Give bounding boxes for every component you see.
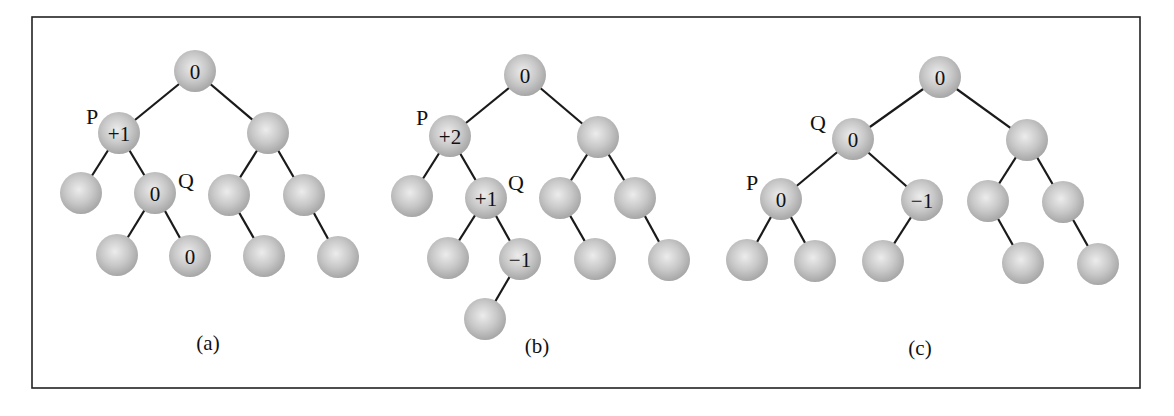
node-ball xyxy=(539,177,581,219)
tree-c: 000−1QP(c) xyxy=(726,56,1119,360)
pointer-label-p: P xyxy=(86,104,98,129)
node-ball xyxy=(1042,181,1084,223)
pointer-label-q: Q xyxy=(508,170,524,195)
tree-a: 0+100PQ(a) xyxy=(60,50,359,355)
balance-factor-label: +2 xyxy=(439,125,461,149)
node-ball xyxy=(243,235,285,277)
node-ball xyxy=(648,239,690,281)
tree-node: 0 xyxy=(832,118,874,160)
tree-node xyxy=(577,116,619,158)
tree-node xyxy=(726,239,768,281)
tree-node xyxy=(60,172,102,214)
tree-node: 0 xyxy=(174,50,216,92)
pointer-label-p: P xyxy=(416,105,428,130)
node-ball xyxy=(1006,119,1048,161)
tree-node xyxy=(1042,181,1084,223)
balance-factor-label: −1 xyxy=(911,189,933,213)
tree-node xyxy=(464,298,506,340)
node-ball xyxy=(577,116,619,158)
tree-node: −1 xyxy=(499,238,541,280)
tree-node: 0 xyxy=(169,235,211,277)
tree-node xyxy=(862,240,904,282)
tree-node xyxy=(539,177,581,219)
avl-rotation-figure: 0+100PQ(a)0+2+1−1PQ(b)000−1QP(c) xyxy=(0,0,1174,416)
balance-factor-label: 0 xyxy=(776,188,787,212)
node-ball xyxy=(1077,243,1119,285)
node-ball xyxy=(283,174,325,216)
tree-node xyxy=(243,235,285,277)
tree-node: +1 xyxy=(98,112,140,154)
node-ball xyxy=(60,172,102,214)
tree-node: 0 xyxy=(134,172,176,214)
node-ball xyxy=(427,237,469,279)
tree-caption: (b) xyxy=(525,334,550,358)
node-ball xyxy=(1002,242,1044,284)
balance-factor-label: 0 xyxy=(185,245,196,269)
node-ball xyxy=(574,238,616,280)
node-ball xyxy=(726,239,768,281)
pointer-label-q: Q xyxy=(810,110,826,135)
tree-node xyxy=(794,240,836,282)
node-ball xyxy=(794,240,836,282)
node-ball xyxy=(614,177,656,219)
balance-factor-label: +1 xyxy=(475,187,497,211)
node-ball xyxy=(208,174,250,216)
tree-node xyxy=(208,174,250,216)
balance-factor-label: 0 xyxy=(150,182,161,206)
node-ball xyxy=(247,112,289,154)
tree-node: +2 xyxy=(429,115,471,157)
tree-node xyxy=(283,174,325,216)
tree-node: 0 xyxy=(919,56,961,98)
tree-caption: (c) xyxy=(908,336,931,360)
node-ball xyxy=(317,236,359,278)
tree-node: 0 xyxy=(504,54,546,96)
balance-factor-label: −1 xyxy=(509,248,531,272)
tree-node xyxy=(247,112,289,154)
tree-caption: (a) xyxy=(196,331,219,355)
tree-node xyxy=(1002,242,1044,284)
tree-node xyxy=(967,180,1009,222)
tree-node xyxy=(614,177,656,219)
tree-node: +1 xyxy=(465,177,507,219)
node-ball xyxy=(96,234,138,276)
balance-factor-label: 0 xyxy=(520,64,531,88)
tree-node: 0 xyxy=(760,178,802,220)
balance-factor-label: +1 xyxy=(108,122,130,146)
pointer-label-p: P xyxy=(746,170,758,195)
tree-node: −1 xyxy=(901,179,943,221)
tree-edges xyxy=(81,71,338,257)
tree-b: 0+2+1−1PQ(b) xyxy=(391,54,690,358)
balance-factor-label: 0 xyxy=(190,60,201,84)
node-ball xyxy=(967,180,1009,222)
tree-node xyxy=(574,238,616,280)
node-ball xyxy=(391,175,433,217)
tree-node xyxy=(317,236,359,278)
tree-node xyxy=(391,175,433,217)
trees-layer: 0+100PQ(a)0+2+1−1PQ(b)000−1QP(c) xyxy=(60,50,1119,360)
tree-node xyxy=(648,239,690,281)
pointer-label-q: Q xyxy=(178,168,194,193)
node-ball xyxy=(862,240,904,282)
tree-node xyxy=(1077,243,1119,285)
node-ball xyxy=(464,298,506,340)
balance-factor-label: 0 xyxy=(848,128,859,152)
tree-node xyxy=(1006,119,1048,161)
tree-node xyxy=(427,237,469,279)
tree-node xyxy=(96,234,138,276)
tree-edges xyxy=(747,77,1098,264)
balance-factor-label: 0 xyxy=(935,66,946,90)
